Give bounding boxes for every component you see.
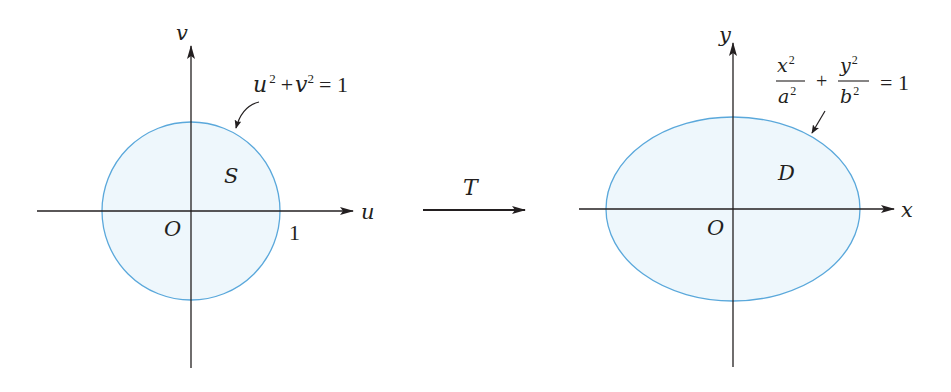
circle-pointer-arrow — [236, 102, 259, 128]
transformation-t: T — [423, 175, 525, 210]
origin-label-right: O — [707, 216, 724, 240]
region-label-d: D — [777, 161, 795, 185]
svg-text:y2: y2 — [839, 53, 858, 76]
uv-plane: v u O S 1 u2+v2= 1 — [37, 21, 375, 368]
intercept-label-one: 1 — [289, 220, 300, 245]
transformation-label: T — [463, 175, 480, 200]
circle-equation: u2+v2= 1 — [253, 71, 348, 97]
svg-text:a2: a2 — [778, 84, 796, 107]
ellipse-equation: x2 a2 + y2 b2 = 1 — [776, 53, 909, 107]
svg-text:x2: x2 — [777, 53, 795, 76]
v-axis-label: v — [176, 21, 188, 45]
x-axis-label: x — [901, 198, 913, 222]
y-axis-label: y — [718, 23, 732, 47]
transformation-diagram: v u O S 1 u2+v2= 1 T y x O D x2 a2 + — [0, 0, 951, 392]
region-label-s: S — [224, 164, 238, 188]
svg-text:= 1: = 1 — [880, 70, 909, 95]
svg-text:b2: b2 — [840, 84, 859, 107]
xy-plane: y x O D x2 a2 + y2 b2 = 1 — [579, 23, 913, 367]
ellipse-pointer-arrow — [812, 111, 825, 133]
svg-text:+: + — [816, 70, 827, 92]
origin-label-left: O — [164, 217, 181, 241]
u-axis-label: u — [361, 200, 375, 224]
